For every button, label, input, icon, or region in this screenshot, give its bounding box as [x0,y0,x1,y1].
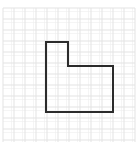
figure-canvas [0,0,140,152]
geometry-figure [0,0,140,152]
grid-lines [3,8,135,142]
